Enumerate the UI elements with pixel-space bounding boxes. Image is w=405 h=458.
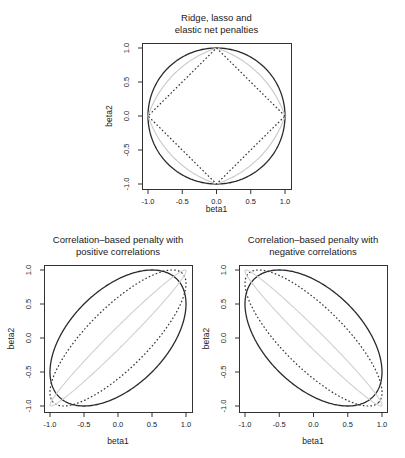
y-tick-label: 1.0	[219, 265, 228, 275]
x-axis-label: beta1	[107, 436, 129, 446]
x-tick-label: -0.5	[78, 420, 91, 429]
y-tick-label: 0.0	[24, 333, 33, 343]
series-line	[50, 270, 186, 406]
y-tick-label: -0.5	[122, 144, 131, 157]
plot-area	[148, 48, 285, 184]
y-axis-label: beta2	[201, 328, 211, 350]
chart-title: Correlation–based penalty with	[53, 234, 183, 245]
x-tick-label: 0.5	[246, 197, 256, 206]
x-tick-label: 1.0	[377, 420, 387, 429]
y-tick-label: 0.0	[219, 333, 228, 343]
x-tick-label: 1.0	[181, 420, 191, 429]
x-tick-label: 1.0	[280, 197, 290, 206]
series-line	[245, 270, 382, 406]
y-tick-label: 0.5	[219, 299, 228, 309]
x-tick-label: -0.5	[176, 197, 189, 206]
y-tick-label: 0.5	[24, 299, 33, 309]
series-line	[148, 48, 285, 184]
series-line	[50, 270, 186, 406]
figure-canvas: Ridge, lasso andelastic net penalties-1.…	[0, 0, 405, 458]
x-axis-label: beta1	[206, 204, 228, 214]
chart-title: Correlation–based penalty with	[248, 234, 378, 245]
x-tick-label: 0.5	[147, 420, 157, 429]
y-tick-label: 0.0	[122, 111, 131, 121]
x-tick-label: 0.0	[113, 420, 123, 429]
series-line	[50, 270, 186, 406]
series-line	[245, 270, 382, 406]
x-tick-label: 0.5	[343, 420, 353, 429]
x-tick-label: -1.0	[44, 420, 57, 429]
x-tick-label: -1.0	[239, 420, 252, 429]
y-tick-label: -1.0	[219, 400, 228, 413]
plot-frame	[45, 266, 193, 413]
plot-area	[245, 270, 382, 406]
x-tick-label: -0.5	[273, 420, 286, 429]
y-tick-label: -0.5	[24, 366, 33, 379]
x-tick-label: -1.0	[142, 197, 155, 206]
x-axis-label: beta1	[302, 436, 324, 446]
y-tick-label: -1.0	[24, 400, 33, 413]
chart-panel-bottom-right: Correlation–based penalty withnegative c…	[201, 234, 388, 446]
plot-area	[50, 270, 186, 406]
chart-title: elastic net penalties	[175, 24, 259, 35]
y-axis-label: beta2	[6, 328, 16, 350]
plot-frame	[240, 266, 388, 413]
chart-panel-bottom-left: Correlation–based penalty withpositive c…	[6, 234, 193, 446]
series-line	[245, 270, 382, 406]
y-axis-label: beta2	[104, 105, 114, 127]
y-tick-label: 1.0	[122, 43, 131, 53]
series-line	[148, 48, 285, 184]
y-tick-label: 1.0	[24, 265, 33, 275]
y-tick-label: -1.0	[122, 178, 131, 191]
plot-frame	[143, 44, 292, 190]
chart-title: Ridge, lasso and	[181, 12, 252, 23]
x-tick-label: 0.0	[308, 420, 318, 429]
chart-title: positive correlations	[76, 246, 160, 257]
y-tick-label: 0.5	[122, 77, 131, 87]
chart-panel-top: Ridge, lasso andelastic net penalties-1.…	[104, 12, 292, 214]
chart-title: negative correlations	[269, 246, 357, 257]
series-line	[148, 48, 285, 184]
y-tick-label: -0.5	[219, 366, 228, 379]
